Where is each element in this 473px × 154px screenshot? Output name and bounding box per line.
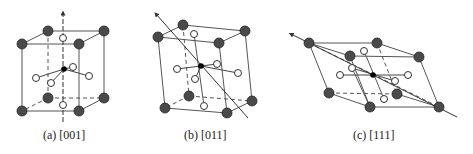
center-atom xyxy=(198,63,204,69)
center-atom xyxy=(61,66,67,72)
caption-c: (c) [111] xyxy=(353,128,394,143)
center-atom xyxy=(370,72,376,78)
panel-c-unit-cell xyxy=(291,34,457,117)
panel-a-unit-cell xyxy=(17,13,109,122)
caption-b: (b) [011] xyxy=(184,128,227,143)
caption-a: (a) [001] xyxy=(43,128,85,143)
panel-b-unit-cell xyxy=(153,14,257,118)
